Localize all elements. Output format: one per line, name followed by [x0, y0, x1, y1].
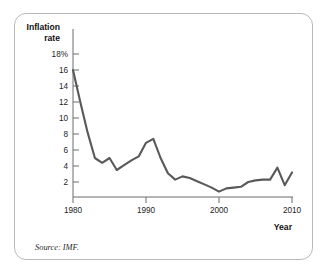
y-tick-label-12: 12: [59, 98, 69, 107]
x-axis-ticks: [73, 197, 292, 203]
y-tick-label-14: 14: [59, 82, 69, 91]
x-tick-label-2010: 2010: [283, 206, 302, 215]
figure-card: 18% 16 14 12 10 8 6 4 2 1980 1990 2000 2…: [14, 13, 313, 260]
y-tick-label-8: 8: [63, 130, 68, 139]
y-tick-label-4: 4: [63, 162, 68, 171]
y-tick-label-10: 10: [59, 114, 69, 123]
inflation-rate-line-chart: 18% 16 14 12 10 8 6 4 2 1980 1990 2000 2…: [15, 14, 314, 261]
x-tick-label-1990: 1990: [137, 206, 156, 215]
y-axis-title-line2: rate: [44, 33, 60, 43]
x-tick-label-2000: 2000: [210, 206, 229, 215]
inflation-rate-series-line: [73, 70, 292, 192]
y-tick-label-18: 18%: [52, 50, 68, 59]
y-tick-label-16: 16: [59, 66, 69, 75]
source-note: Source: IMF.: [35, 243, 79, 252]
x-axis-title: Year: [274, 222, 293, 232]
x-tick-label-1980: 1980: [64, 206, 83, 215]
y-tick-label-6: 6: [63, 146, 68, 155]
y-tick-label-2: 2: [63, 178, 68, 187]
y-axis-title-line1: Inflation: [27, 22, 60, 32]
